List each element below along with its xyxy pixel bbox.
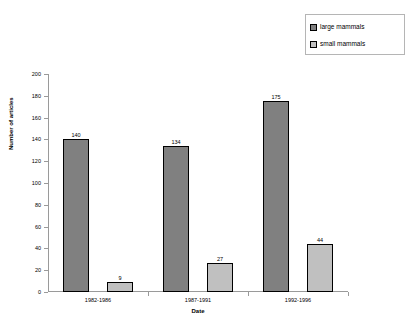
bar-value-label: 175 (271, 94, 280, 100)
x-category-label: 1992-1996 (285, 297, 311, 303)
y-tick-label: 0 (38, 289, 41, 295)
bar-chart: large mammals small mammals 020406080100… (0, 0, 419, 329)
legend-label-large-mammals: large mammals (320, 23, 364, 31)
legend-swatch-large-mammals (310, 24, 317, 31)
x-tick (348, 292, 349, 296)
bar-value-label: 44 (317, 237, 323, 243)
y-tick: 80 (44, 205, 48, 206)
y-tick-label: 80 (35, 202, 41, 208)
y-tick-label: 120 (32, 158, 41, 164)
legend-item-small-mammals: small mammals (310, 36, 404, 52)
x-axis-line (48, 291, 348, 292)
y-axis-title: Number of articles (8, 97, 14, 150)
y-tick-label: 40 (35, 245, 41, 251)
y-tick-label: 20 (35, 267, 41, 273)
y-tick: 180 (44, 96, 48, 97)
plot-area: 020406080100120140160180200 140913427175… (48, 74, 348, 292)
bar: 175 (263, 101, 289, 292)
y-tick: 0 (44, 292, 48, 293)
bar: 140 (63, 139, 89, 292)
bar: 9 (107, 282, 133, 292)
y-tick: 40 (44, 248, 48, 249)
x-tick (148, 292, 149, 296)
chart-legend: large mammals small mammals (305, 14, 405, 55)
y-axis-line (48, 74, 49, 292)
x-axis-title: Date (48, 308, 348, 314)
y-tick-label: 140 (32, 136, 41, 142)
bar: 134 (163, 146, 189, 292)
legend-swatch-small-mammals (310, 41, 317, 48)
bar-value-label: 9 (118, 275, 121, 281)
bar: 44 (307, 244, 333, 292)
x-tick (248, 292, 249, 296)
y-tick-label: 200 (32, 71, 41, 77)
y-tick: 120 (44, 161, 48, 162)
y-tick: 140 (44, 139, 48, 140)
bar-value-label: 140 (71, 132, 80, 138)
legend-label-small-mammals: small mammals (320, 40, 365, 48)
y-tick: 60 (44, 227, 48, 228)
x-category-label: 1987-1991 (185, 297, 211, 303)
y-tick: 160 (44, 118, 48, 119)
y-tick-label: 160 (32, 115, 41, 121)
bar-value-label: 134 (171, 139, 180, 145)
y-tick-label: 180 (32, 93, 41, 99)
legend-item-large-mammals: large mammals (310, 19, 404, 35)
y-tick-label: 60 (35, 224, 41, 230)
y-tick: 100 (44, 183, 48, 184)
y-tick: 200 (44, 74, 48, 75)
bar: 27 (207, 263, 233, 292)
bar-value-label: 27 (217, 256, 223, 262)
y-tick-label: 100 (32, 180, 41, 186)
y-tick: 20 (44, 270, 48, 271)
x-category-label: 1982-1986 (85, 297, 111, 303)
